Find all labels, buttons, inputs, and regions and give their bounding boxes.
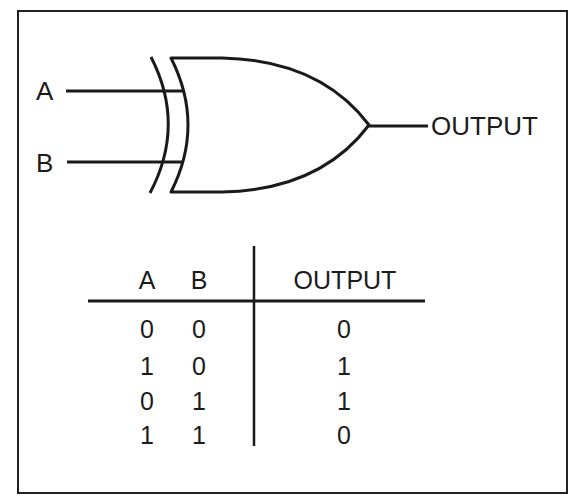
cell-b: 1 — [179, 423, 219, 448]
xor-gate-diagram — [0, 0, 582, 504]
cell-a: 0 — [127, 389, 167, 414]
cell-b: 0 — [179, 354, 219, 379]
cell-output: 1 — [324, 354, 364, 379]
input-a-label: A — [36, 78, 53, 104]
cell-a: 1 — [127, 423, 167, 448]
header-a: A — [127, 268, 167, 293]
cell-a: 1 — [127, 354, 167, 379]
xor-input-curve — [150, 57, 168, 193]
or-gate-body — [171, 58, 369, 192]
cell-output: 0 — [324, 423, 364, 448]
cell-output: 1 — [324, 389, 364, 414]
header-output: OUTPUT — [270, 268, 420, 293]
cell-b: 1 — [179, 389, 219, 414]
cell-output: 0 — [324, 317, 364, 342]
cell-a: 0 — [127, 317, 167, 342]
cell-b: 0 — [179, 317, 219, 342]
header-b: B — [179, 268, 219, 293]
output-label: OUTPUT — [431, 113, 538, 139]
input-b-label: B — [36, 150, 53, 176]
